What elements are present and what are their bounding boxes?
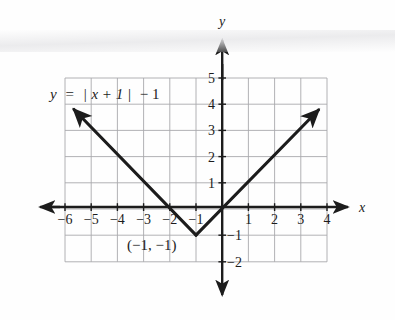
vertex-point-label: (−1, −1) <box>127 237 176 254</box>
y-tick-label: −2 <box>227 255 242 270</box>
x-tick-label: −2 <box>162 212 177 227</box>
y-tick-label: 1 <box>208 176 215 191</box>
x-tick-label: −3 <box>136 212 151 227</box>
coordinate-plane-svg: −6 −5 −4 −3 −2 −1 1 2 3 4 5 4 3 2 1 −1 −… <box>0 0 395 320</box>
x-axis-label: x <box>358 200 366 215</box>
x-tick-labels: −6 −5 −4 −3 −2 −1 1 2 3 4 <box>58 212 331 227</box>
y-tick-label: 2 <box>208 150 215 165</box>
x-tick-label: 4 <box>324 212 331 227</box>
x-tick-label: −6 <box>58 212 73 227</box>
y-axis-label: y <box>217 14 226 29</box>
equation-label: y = | x + 1 | − 1 <box>48 86 159 102</box>
equation-equals: = <box>65 86 73 102</box>
y-tick-label: 3 <box>208 123 215 138</box>
x-tick-label: −5 <box>84 212 99 227</box>
x-tick-label: 3 <box>297 212 304 227</box>
equation-inner: x + 1 <box>90 86 123 102</box>
equation-tail: − 1 <box>140 86 160 102</box>
x-tick-label: −4 <box>110 212 125 227</box>
equation-bar-open: | <box>84 86 87 102</box>
graph-figure: −6 −5 −4 −3 −2 −1 1 2 3 4 5 4 3 2 1 −1 −… <box>0 0 395 320</box>
equation-lhs: y <box>48 86 57 102</box>
x-tick-label: 1 <box>245 212 252 227</box>
y-tick-label: −1 <box>227 228 242 243</box>
y-tick-label: 4 <box>208 97 215 112</box>
y-tick-labels: 5 4 3 2 1 −1 −2 <box>208 71 242 270</box>
svg-text:y = |: y = | x + 1 | − 1 <box>48 86 159 102</box>
y-tick-label: 5 <box>208 71 215 86</box>
equation-bar-close: | <box>128 86 131 102</box>
x-tick-label: 2 <box>271 212 278 227</box>
x-tick-label: −1 <box>189 212 204 227</box>
